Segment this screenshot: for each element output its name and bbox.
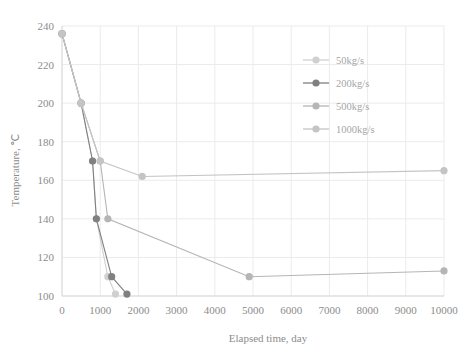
data-point <box>104 215 111 222</box>
x-tick-label: 2000 <box>127 304 150 316</box>
y-tick-label: 220 <box>38 59 55 71</box>
y-tick-label: 240 <box>38 20 55 32</box>
data-point <box>89 157 96 164</box>
legend-item-label: 1000kg/s <box>336 124 375 135</box>
legend-item-label: 50kg/s <box>336 55 364 66</box>
data-point <box>440 167 447 174</box>
chart-canvas: 100120140160180200220240 010002000300040… <box>0 0 476 354</box>
y-tick-label: 140 <box>38 213 55 225</box>
legend-marker-icon <box>312 56 319 63</box>
x-tick-label: 9000 <box>395 304 418 316</box>
x-tick-label: 4000 <box>204 304 227 316</box>
data-point <box>440 267 447 274</box>
y-tick-label: 200 <box>38 97 55 109</box>
legend-marker-icon <box>312 79 319 86</box>
x-tick-label: 7000 <box>318 304 341 316</box>
line-chart: 100120140160180200220240 010002000300040… <box>0 0 476 354</box>
data-point <box>139 173 146 180</box>
x-tick-label: 1000 <box>89 304 112 316</box>
plot-background <box>0 0 476 354</box>
x-tick-label: 6000 <box>280 304 303 316</box>
y-tick-label: 100 <box>38 290 55 302</box>
x-axis-title: Elapsed time, day <box>229 332 308 344</box>
data-point <box>123 290 130 297</box>
y-tick-label: 160 <box>38 174 55 186</box>
y-tick-label: 180 <box>38 136 55 148</box>
data-point <box>108 273 115 280</box>
x-tick-label: 0 <box>59 304 65 316</box>
y-axis-title: Temperature, ℃ <box>9 134 21 207</box>
y-tick-label: 120 <box>38 251 55 263</box>
data-point <box>112 290 119 297</box>
x-tick-label: 10000 <box>430 304 458 316</box>
x-tick-label: 8000 <box>357 304 380 316</box>
data-point <box>58 30 65 37</box>
x-tick-label: 5000 <box>242 304 265 316</box>
legend-item-label: 200kg/s <box>336 78 369 89</box>
data-point <box>93 215 100 222</box>
data-point <box>97 157 104 164</box>
data-point <box>78 100 85 107</box>
legend-marker-icon <box>312 102 319 109</box>
data-point <box>246 273 253 280</box>
x-tick-label: 3000 <box>166 304 189 316</box>
legend-marker-icon <box>312 125 319 132</box>
legend-item-label: 500kg/s <box>336 101 369 112</box>
